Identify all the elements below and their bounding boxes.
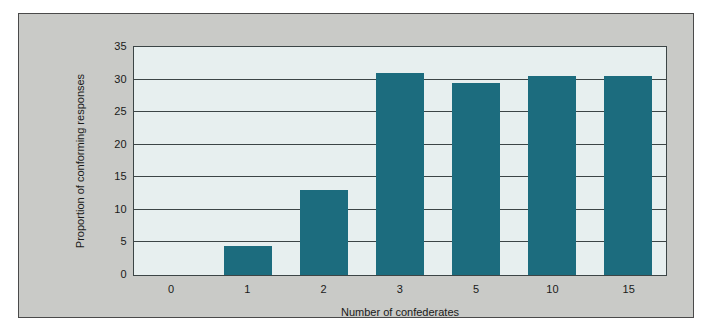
x-tick-label: 15 — [591, 280, 667, 298]
x-axis-title: Number of confederates — [133, 306, 667, 318]
bar[interactable] — [224, 246, 273, 275]
y-tick-label: 25 — [114, 105, 127, 117]
bar[interactable] — [604, 76, 653, 275]
y-tick-label: 30 — [114, 73, 127, 85]
bar-slot — [438, 47, 514, 275]
bar[interactable] — [528, 76, 577, 275]
y-tick-label: 20 — [114, 138, 127, 150]
bars-layer — [134, 47, 666, 275]
chart-screenshot: Proportion of conforming responses 35 30… — [0, 0, 712, 334]
y-tick-label: 15 — [114, 170, 127, 182]
y-tick-label: 5 — [121, 235, 127, 247]
bar-slot — [134, 47, 210, 275]
y-tick-label: 0 — [121, 268, 127, 280]
x-tick-label: 2 — [286, 280, 362, 298]
y-axis-tick-labels: 35 30 25 20 15 10 5 0 — [93, 46, 127, 276]
bar-slot — [514, 47, 590, 275]
x-tick-label: 0 — [133, 280, 209, 298]
y-tick-label: 35 — [114, 40, 127, 52]
bar-slot — [590, 47, 666, 275]
y-tick-label: 10 — [114, 203, 127, 215]
plot-area — [133, 46, 667, 276]
bar[interactable] — [300, 190, 349, 275]
bar[interactable] — [376, 73, 425, 275]
x-tick-label: 3 — [362, 280, 438, 298]
bar-slot — [362, 47, 438, 275]
bar-slot — [286, 47, 362, 275]
x-axis-tick-labels: 012351015 — [133, 280, 667, 298]
bar[interactable] — [452, 83, 501, 275]
bar-slot — [210, 47, 286, 275]
x-tick-label: 5 — [438, 280, 514, 298]
x-tick-label: 1 — [209, 280, 285, 298]
figure-panel: Proportion of conforming responses 35 30… — [18, 13, 694, 318]
y-axis-title: Proportion of conforming responses — [71, 46, 89, 276]
x-tick-label: 10 — [514, 280, 590, 298]
